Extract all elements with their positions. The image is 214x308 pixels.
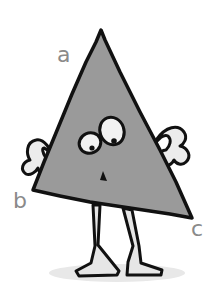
vertex-label-c: c — [191, 218, 203, 240]
vertex-label-b: b — [13, 190, 27, 212]
vertex-label-a: a — [57, 44, 70, 66]
triangle-character-drawing — [0, 0, 214, 308]
left-pupil — [89, 145, 94, 150]
right-leg — [123, 208, 162, 275]
right-pupil — [111, 138, 117, 144]
triangle-character-illustration: a b c — [0, 0, 214, 308]
